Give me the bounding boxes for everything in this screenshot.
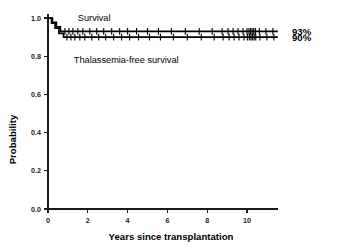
- x-tick-label: 4: [126, 216, 130, 225]
- x-axis-title: Years since transplantation: [109, 231, 234, 242]
- endpoint-label-thalassemia-free-survival: 90%: [292, 32, 312, 43]
- y-axis-title: Probability: [7, 114, 18, 164]
- endpoint-labels: 93%90%: [292, 26, 312, 43]
- x-tick-label: 0: [46, 216, 50, 225]
- y-tick-label: 0.8: [31, 52, 41, 61]
- y-tick-label: 0.2: [31, 166, 41, 175]
- censoring-marks: [65, 28, 274, 41]
- x-tick-label: 8: [205, 216, 209, 225]
- x-tick-label: 2: [86, 216, 90, 225]
- y-tick-label: 0.4: [31, 128, 41, 137]
- kaplan-meier-survival-chart: 0.00.20.40.60.81.0 0246810 SurvivalThala…: [0, 0, 339, 248]
- y-tick-label: 0.0: [31, 205, 41, 214]
- chart-canvas: 0.00.20.40.60.81.0 0246810 SurvivalThala…: [0, 0, 339, 248]
- y-axis: 0.00.20.40.60.81.0: [31, 14, 48, 214]
- thalassemia-free-survival-curve-label: Thalassemia-free survival: [74, 55, 179, 65]
- x-tick-label: 10: [243, 216, 251, 225]
- x-axis: 0246810: [46, 209, 278, 225]
- survival-curve-label: Survival: [78, 13, 111, 23]
- y-tick-label: 0.6: [31, 90, 41, 99]
- x-tick-label: 6: [165, 216, 169, 225]
- curve-annotations: SurvivalThalassemia-free survival: [74, 13, 179, 65]
- y-tick-label: 1.0: [31, 14, 41, 23]
